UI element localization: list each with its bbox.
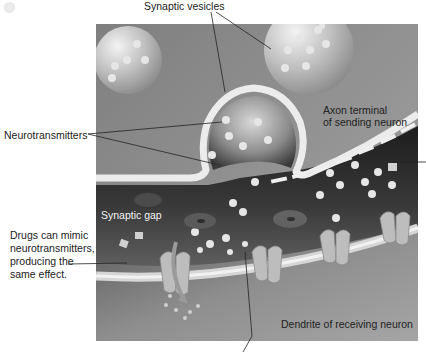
label-drugs-line4: same effect. bbox=[10, 268, 67, 280]
synapse-diagram: Synaptic vesicles Neurotransmitters Axon… bbox=[0, 0, 426, 353]
label-axon-terminal-line1: Axon terminal bbox=[323, 104, 387, 116]
label-drugs-line1: Drugs can mimic bbox=[10, 229, 88, 241]
label-synaptic-vesicles: Synaptic vesicles bbox=[144, 0, 225, 12]
label-axon-terminal-line2: of sending neuron bbox=[323, 116, 407, 128]
label-drugs-line3: producing the bbox=[10, 255, 74, 267]
label-drugs-line2: neurotransmitters, bbox=[10, 242, 95, 254]
label-neurotransmitters: Neurotransmitters bbox=[4, 129, 87, 141]
synapse-illustration bbox=[0, 0, 426, 353]
label-synaptic-gap: Synaptic gap bbox=[101, 209, 162, 221]
label-dendrite: Dendrite of receiving neuron bbox=[281, 318, 413, 330]
